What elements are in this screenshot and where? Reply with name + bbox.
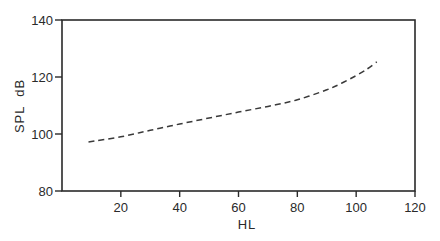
plot-frame <box>62 20 415 191</box>
x-tick-label: 120 <box>404 200 426 215</box>
dashed-curve <box>89 62 377 142</box>
y-axis-ticks: 80100120140 <box>31 13 62 199</box>
x-tick-label: 40 <box>172 200 186 215</box>
y-tick-label: 100 <box>31 127 53 142</box>
x-axis-label: HL <box>238 217 257 232</box>
x-tick-label: 80 <box>290 200 304 215</box>
y-tick-label: 120 <box>31 70 53 85</box>
y-tick-label: 140 <box>31 13 53 28</box>
plot-border <box>62 20 415 191</box>
x-tick-label: 100 <box>345 200 367 215</box>
x-axis-ticks: 20406080100120 <box>114 191 426 215</box>
x-tick-label: 60 <box>231 200 245 215</box>
x-tick-label: 20 <box>114 200 128 215</box>
chart: 80100120140 20406080100120 HL SPL dB <box>0 0 440 241</box>
data-series <box>89 62 377 142</box>
y-axis-label: SPL dB <box>12 79 27 133</box>
y-tick-label: 80 <box>39 184 53 199</box>
